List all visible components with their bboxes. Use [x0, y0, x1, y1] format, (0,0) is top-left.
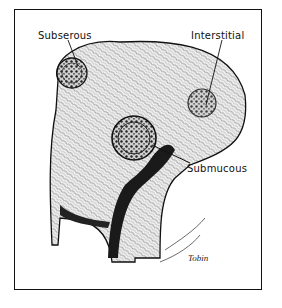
artist-signature: Tobin	[188, 253, 208, 263]
interstitial-fibroid	[188, 89, 216, 117]
uterus-illustration	[0, 0, 282, 308]
label-subserous: Subserous	[38, 30, 92, 41]
submucous-fibroid	[112, 116, 156, 160]
label-submucous: Submucous	[187, 163, 247, 174]
label-interstitial: Interstitial	[191, 30, 244, 41]
subserous-fibroid	[57, 58, 87, 88]
